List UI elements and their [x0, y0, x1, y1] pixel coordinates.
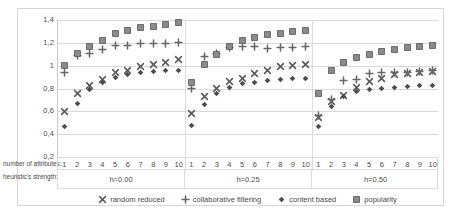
x-axis-caption-strength: heuristic's strength: [3, 170, 55, 183]
gridline [58, 111, 438, 112]
legend-item[interactable]: popularity [352, 195, 397, 204]
x-axis-group-row: h=0.00h=0.25h=0.50 [57, 170, 438, 189]
gridline [58, 66, 438, 67]
gridline [58, 20, 438, 21]
x-axis-group-label: h=0.00 [58, 170, 185, 189]
legend-item[interactable]: random reduced [98, 195, 165, 204]
x-axis-block: number of attributes: heuristic's streng… [57, 157, 438, 189]
y-axis-tick-label: 0,6 [14, 107, 54, 115]
legend-item-label: popularity [364, 195, 397, 204]
gridline [58, 134, 438, 135]
plot-area [57, 20, 438, 157]
legend-item-label: random reduced [110, 195, 165, 204]
legend-item-label: collaborative filtering [193, 195, 261, 204]
chart-legend: random reducedcollaborative filteringcon… [57, 192, 438, 206]
x-cross-icon [98, 195, 107, 204]
x-axis-group-label: h=0.50 [312, 170, 439, 189]
plus-icon [181, 195, 190, 204]
y-axis-tick-label: 1,2 [14, 39, 54, 47]
x-axis-tick-row: 123456789101234567891012345678910 [57, 157, 438, 170]
legend-item-label: content based [289, 195, 336, 204]
y-axis-tick-labels: 1,41,210,80,60,40,2 [10, 20, 54, 157]
square-icon [352, 195, 361, 204]
legend-item[interactable]: collaborative filtering [181, 195, 261, 204]
scatter-chart: 1,41,210,80,60,40,2 number of attributes… [0, 0, 457, 223]
y-axis-tick-label: 1,4 [14, 16, 54, 24]
diamond-icon [277, 195, 286, 204]
x-axis-group-label: h=0.25 [185, 170, 312, 189]
y-axis-tick-label: 0,8 [14, 85, 54, 93]
group-separator [312, 20, 313, 157]
y-axis-tick-label: 0,4 [14, 130, 54, 138]
legend-item[interactable]: content based [277, 195, 336, 204]
y-axis-tick-label: 1 [14, 62, 54, 70]
group-separator [185, 20, 186, 157]
x-axis-caption-attributes: number of attributes: [3, 157, 55, 170]
